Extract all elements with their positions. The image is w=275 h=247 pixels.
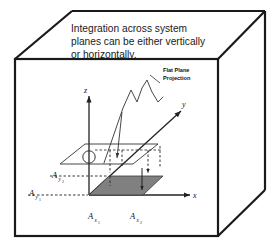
area-label-x1-base: A <box>87 211 94 221</box>
x-axis-label: x <box>192 191 197 200</box>
cube-edge-bottom-right <box>218 190 265 236</box>
area-label-y1-base: A <box>28 188 35 198</box>
figure-container: Integration across system planes can be … <box>0 0 275 247</box>
cube-edge-top-right <box>218 11 265 59</box>
area-label-y1-subsub: 1 <box>39 198 41 202</box>
caption-block: Integration across system planes can be … <box>71 23 206 60</box>
caption-line-3: or horizontally. <box>71 49 137 60</box>
area-label-y2-subsub: 2 <box>62 180 64 184</box>
projection-label-line-2: Projection <box>163 75 191 81</box>
caption-line-1: Integration across system <box>71 23 187 34</box>
projection-label-line-1: Flat Plane <box>163 67 189 73</box>
area-label-x2-base: A <box>129 211 136 221</box>
caption-line-2: planes can be either vertically <box>71 36 206 47</box>
cube-front-face <box>15 59 218 236</box>
diagram-svg: Integration across system planes can be … <box>0 0 275 247</box>
area-label-x1-subsub: 1 <box>98 221 100 225</box>
cube-edge-top-left <box>15 11 72 59</box>
area-label-x2-subsub: 2 <box>140 221 142 225</box>
area-label-y2-base: A <box>51 170 58 180</box>
y-axis-label: y <box>181 100 186 109</box>
